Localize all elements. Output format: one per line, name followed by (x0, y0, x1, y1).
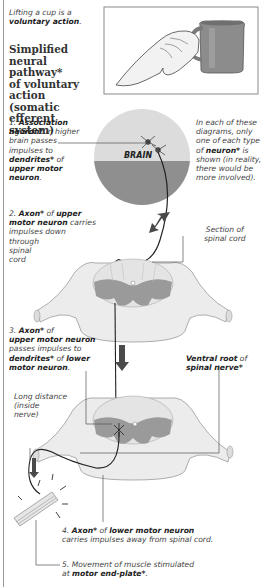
step-2-label: 2. Axon* of upper motor neuron carries i… (9, 209, 96, 264)
neuron-note: In each of these diagrams, only one of e… (196, 118, 261, 182)
long-distance-label: Long distance (inside nerve) (14, 392, 67, 420)
cup-illustration (104, 7, 258, 94)
brain-label: BRAIN (124, 151, 152, 160)
step-4-label: 4. Axon* of lower motor neuron carries i… (62, 526, 213, 544)
muscle-fibres (14, 448, 68, 565)
step-3-label: 3. Axon* of upper motor neuron passes im… (9, 326, 96, 372)
ventral-root-label: Ventral root of spinal nerve* (186, 354, 247, 372)
section-of-spinal-cord-label: Section of spinal cord (204, 225, 246, 243)
spinal-cord-section-lower (29, 365, 233, 522)
step-1-label: 1. Association neuron* in higher brain p… (9, 118, 79, 182)
step-5-label: 5. Movement of muscle stimulated at moto… (62, 560, 194, 578)
diagram-artwork (0, 0, 266, 587)
down-arrow (115, 345, 129, 371)
